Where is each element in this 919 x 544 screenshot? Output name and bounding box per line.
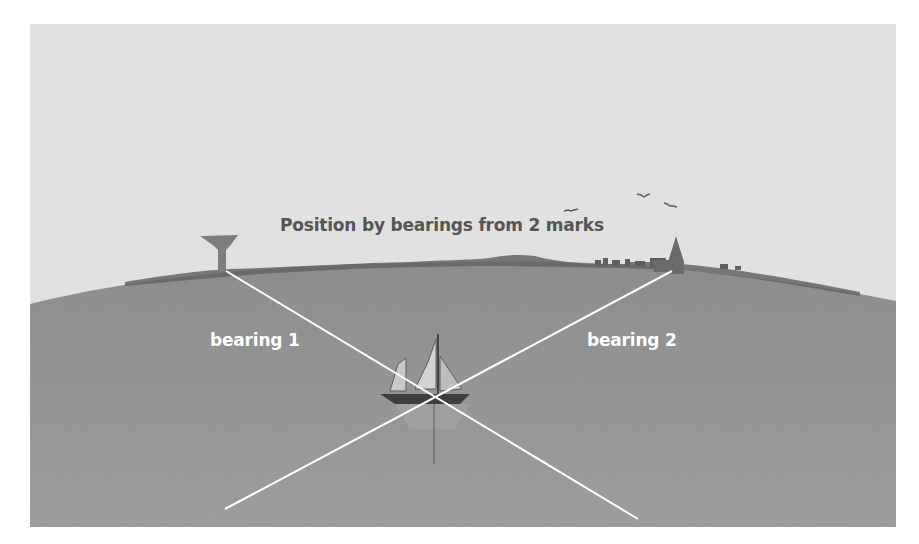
seascape-illustration [30, 24, 896, 527]
diagram-title: Position by bearings from 2 marks [280, 215, 604, 235]
bearing-2-label: bearing 2 [587, 330, 677, 350]
bearing-1-label: bearing 1 [210, 330, 300, 350]
paper-texture [30, 24, 896, 527]
illustration-frame [30, 24, 896, 527]
